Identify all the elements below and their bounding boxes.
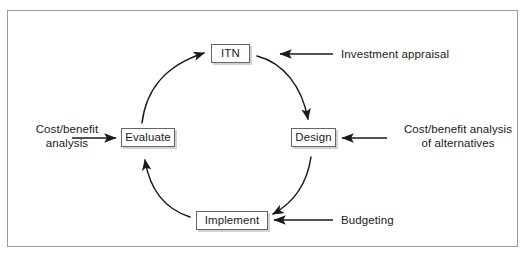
annotation-label-cost-benefit-alternatives: Cost/benefit analysis of alternatives [395, 123, 521, 150]
cycle-node-design[interactable]: Design [291, 128, 336, 147]
cycle-arrow-design-to-implement [273, 157, 311, 214]
cycle-node-implement-label: Implement [205, 215, 260, 227]
cycle-arrow-implement-to-evaluate [145, 160, 190, 217]
annotation-label-cost-benefit-analysis: Cost/benefit analysis [26, 123, 108, 150]
cycle-node-design-label: Design [295, 132, 331, 144]
annotation-label-investment-appraisal: Investment appraisal [341, 48, 449, 62]
scan-bleed-artifact [44, 13, 47, 24]
figure-frame: ITN Design Implement Evaluate Investment… [7, 10, 518, 247]
cycle-node-implement[interactable]: Implement [196, 211, 268, 230]
cycle-node-itn-label: ITN [221, 48, 240, 60]
cycle-node-itn[interactable]: ITN [211, 44, 250, 63]
cycle-arrow-itn-to-design [257, 56, 308, 119]
diagram-canvas: ITN Design Implement Evaluate Investment… [0, 0, 528, 260]
cycle-node-evaluate-label: Evaluate [125, 132, 171, 144]
cycle-arrow-evaluate-to-itn [142, 53, 204, 123]
cycle-node-evaluate[interactable]: Evaluate [121, 128, 175, 147]
annotation-label-budgeting: Budgeting [341, 214, 394, 228]
